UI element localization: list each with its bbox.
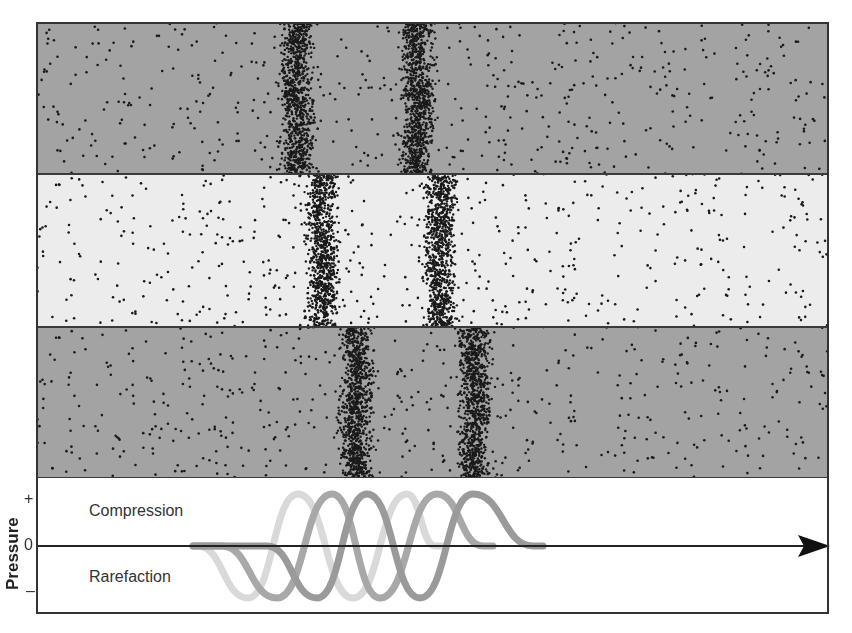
pressure-axis-label: Pressure — [3, 517, 23, 590]
tick-zero: 0 — [24, 536, 33, 554]
pressure-waves — [0, 0, 852, 633]
tick-plus: + — [24, 490, 33, 508]
sound-wave-figure: Compression Rarefaction + 0 – Pressure — [0, 0, 852, 633]
tick-minus: – — [26, 582, 35, 600]
